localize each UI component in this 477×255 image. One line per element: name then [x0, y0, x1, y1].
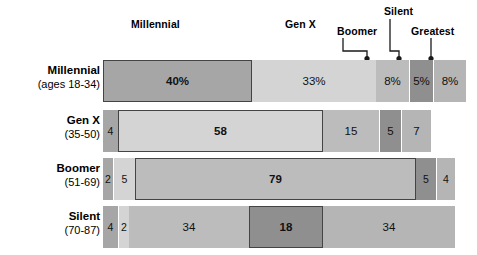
segment-boomer-boomer: 79: [135, 158, 416, 200]
segment-millennial-genx: 33%: [252, 60, 376, 102]
bar-boomer: 2 5 79 5 4: [103, 158, 455, 200]
segment-silent-silent: 18: [249, 206, 323, 248]
row-label-generation: Silent: [0, 209, 100, 223]
column-header-greatest: Greatest: [411, 25, 454, 37]
segment-boomer-genx: 5: [114, 158, 135, 200]
row-label-ages: (51-69): [0, 175, 100, 189]
segment-silent-genx: 2: [119, 206, 129, 248]
chart-row-genx: Gen X (35-50) 4 58 15 5 7: [0, 110, 477, 152]
row-label-generation: Gen X: [0, 113, 100, 127]
bar-millennial: 40% 33% 8% 5% 8%: [103, 60, 455, 102]
row-label-millennial: Millennial (ages 18-34): [0, 63, 100, 91]
row-label-genx: Gen X (35-50): [0, 113, 100, 141]
row-label-silent: Silent (70-87): [0, 209, 100, 237]
row-label-ages: (35-50): [0, 127, 100, 141]
silent-leader-line: [390, 19, 399, 57]
segment-silent-greatest: 34: [323, 206, 455, 248]
segment-millennial-millennial: 40%: [103, 60, 252, 102]
column-header-genx: Gen X: [285, 18, 316, 30]
segment-genx-millennial: 4: [103, 110, 118, 152]
row-label-ages: (70-87): [0, 223, 100, 237]
bar-genx: 4 58 15 5 7: [103, 110, 455, 152]
chart-row-boomer: Boomer (51-69) 2 5 79 5 4: [0, 158, 477, 200]
segment-genx-boomer: 15: [323, 110, 380, 152]
column-header-millennial: Millennial: [131, 18, 180, 30]
column-header-silent: Silent: [384, 5, 413, 17]
segment-genx-silent: 5: [380, 110, 402, 152]
segment-millennial-silent: 5%: [410, 60, 434, 102]
segment-silent-boomer: 34: [129, 206, 249, 248]
bar-silent: 4 2 34 18 34: [103, 206, 455, 248]
segment-genx-greatest: 7: [402, 110, 431, 152]
row-label-boomer: Boomer (51-69): [0, 161, 100, 189]
stacked-bar-chart: Millennial Gen X Boomer Silent Greatest …: [0, 0, 477, 255]
row-label-generation: Millennial: [0, 63, 100, 77]
segment-boomer-greatest: 4: [437, 158, 455, 200]
segment-silent-millennial: 4: [103, 206, 119, 248]
row-label-generation: Boomer: [0, 161, 100, 175]
boomer-leader-line: [343, 38, 367, 57]
segment-millennial-boomer: 8%: [376, 60, 410, 102]
column-header-boomer: Boomer: [337, 25, 377, 37]
segment-genx-genx: 58: [118, 110, 323, 152]
chart-row-silent: Silent (70-87) 4 2 34 18 34: [0, 206, 477, 248]
segment-boomer-silent: 5: [416, 158, 437, 200]
segment-millennial-greatest: 8%: [434, 60, 466, 102]
row-label-ages: (ages 18-34): [0, 77, 100, 91]
segment-boomer-millennial: 2: [103, 158, 114, 200]
chart-row-millennial: Millennial (ages 18-34) 40% 33% 8% 5% 8%: [0, 60, 477, 102]
